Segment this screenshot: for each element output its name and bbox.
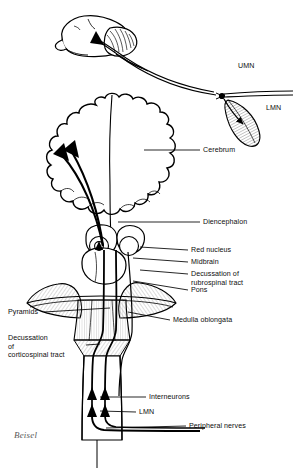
label-red-nucleus: Red nucleus — [191, 246, 231, 255]
label-medulla-oblongata: Medulla oblongata — [173, 316, 232, 325]
label-pons: Pons — [191, 286, 207, 295]
neuroanatomy-figure: UMN LMN Cerebrum Diencephalon Red nucleu… — [0, 0, 293, 472]
label-lmn-inset: LMN — [266, 104, 281, 113]
label-peripheral-nerves: Peripheral nerves — [189, 422, 246, 431]
cerebrum-outline — [47, 93, 176, 236]
label-lmn-spinal: LMN — [139, 408, 154, 417]
label-interneurons: Interneurons — [149, 393, 190, 402]
artist-signature: Beisel — [14, 430, 37, 440]
label-pyramids: Pyramids — [8, 308, 38, 317]
label-cerebrum: Cerebrum — [203, 146, 235, 155]
label-midbrain: Midbrain — [191, 258, 219, 267]
red-nucleus-right-icon — [120, 237, 139, 256]
label-decussation-rubrospinal-tract: Decussation of rubrospinal tract — [191, 270, 243, 287]
label-decussation-corticospinal-tract: Decussation of corticospinal tract — [8, 334, 65, 360]
label-diencephalon: Diencephalon — [203, 218, 247, 227]
label-umn-inset: UMN — [238, 62, 254, 71]
pathway-diagram-svg — [0, 0, 293, 472]
